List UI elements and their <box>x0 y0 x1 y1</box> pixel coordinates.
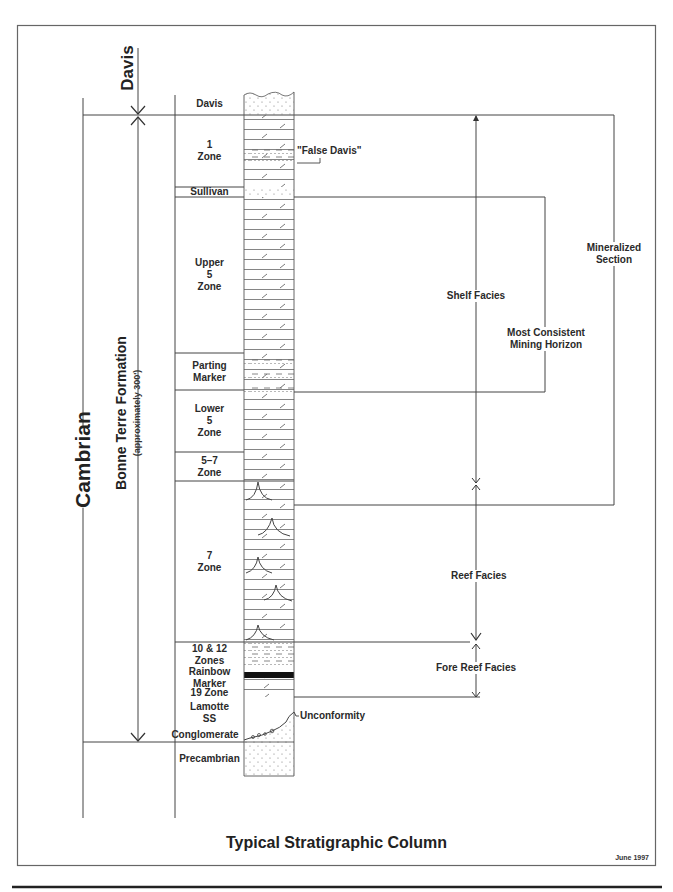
zone-label: 5–7Zone <box>176 455 243 479</box>
unconformity-label: Unconformity <box>300 710 365 722</box>
zone-label-line: 10 & 12 <box>176 643 243 655</box>
zone-label: 10 & 12Zones <box>176 643 243 667</box>
zone-label-line: 5 <box>176 269 243 281</box>
bonne-terre-formation-name: Bonne Terre Formation <box>113 323 129 503</box>
mining-horizon-label: Most Consistent Mining Horizon <box>505 327 587 351</box>
mineralized-line2: Section <box>583 254 645 266</box>
diagram-title: Typical Stratigraphic Column <box>0 834 673 852</box>
zone-label: Sullivan <box>176 186 243 198</box>
zone-label-line: Conglomerate <box>160 729 250 741</box>
rainbow-marker-band <box>244 672 294 678</box>
zone-label-line: 5 <box>176 415 243 427</box>
zone-label-line: 7 <box>176 550 243 562</box>
mining-horizon-line2: Mining Horizon <box>505 339 587 351</box>
zone-label-line: Zone <box>176 467 243 479</box>
zone-label-line: 19 Zone <box>176 687 243 699</box>
mineralized-line1: Mineralized <box>583 242 645 254</box>
stratigraphic-diagram <box>0 0 673 892</box>
mining-horizon-line1: Most Consistent <box>505 327 587 339</box>
davis-period-label: Davis <box>118 43 138 93</box>
bonne-terre-thickness: (approximately 300') <box>129 323 145 503</box>
shelf-facies-label: Shelf Facies <box>445 290 507 302</box>
zone-label-line: Zone <box>176 562 243 574</box>
zone-label-line: Sullivan <box>176 186 243 198</box>
zone-label-line: Zone <box>176 281 243 293</box>
zone-label-line: Upper <box>176 257 243 269</box>
fore-reef-facies-label: Fore Reef Facies <box>435 662 517 674</box>
zone-label-line: Lamotte <box>176 701 243 713</box>
bonne-terre-label: Bonne Terre Formation (approximately 300… <box>113 323 147 503</box>
zone-label-line: Zone <box>176 427 243 439</box>
zone-label-line: SS <box>176 713 243 725</box>
zone-label-line: Marker <box>176 372 243 384</box>
zone-label: LamotteSS <box>176 701 243 725</box>
zone-label-line: Zone <box>176 151 243 163</box>
zone-label: Precambrian <box>176 753 243 765</box>
zone-label-line: Rainbow <box>176 666 243 678</box>
mineralized-section-bracket <box>294 115 614 505</box>
zone-label: 19 Zone <box>176 687 243 699</box>
zone-label: PartingMarker <box>176 360 243 384</box>
zone-label-line: Precambrian <box>176 753 243 765</box>
false-davis-bracket <box>297 158 320 163</box>
zone-label: 1Zone <box>176 139 243 163</box>
false-davis-label: "False Davis" <box>297 145 362 157</box>
mineralized-section-label: Mineralized Section <box>583 242 645 266</box>
diagram-date: June 1997 <box>615 854 649 861</box>
mining-horizon-bracket <box>294 197 545 392</box>
zone-label-line: 1 <box>176 139 243 151</box>
zone-label-line: Davis <box>176 98 243 110</box>
zone-label: Davis <box>176 98 243 110</box>
lithology-column <box>244 92 294 776</box>
cambrian-label: Cambrian <box>71 428 95 508</box>
zone-label: Conglomerate <box>160 729 250 741</box>
zone-label: 7Zone <box>176 550 243 574</box>
zone-label-line: 5–7 <box>176 455 243 467</box>
zone-label-line: Lower <box>176 403 243 415</box>
reef-facies-label: Reef Facies <box>451 570 501 582</box>
zone-label-line: Parting <box>176 360 243 372</box>
zone-label: Upper5Zone <box>176 257 243 293</box>
zone-label: Lower5Zone <box>176 403 243 439</box>
